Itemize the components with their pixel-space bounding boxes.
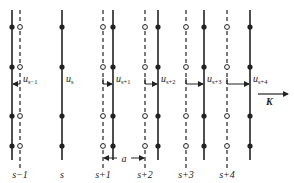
equilibrium-atom-open-circle bbox=[101, 25, 106, 30]
displacement-label: us−1 bbox=[23, 73, 37, 85]
lattice-spacing-indicator: a bbox=[104, 153, 144, 164]
displaced-atom-filled-dot bbox=[201, 24, 206, 29]
displaced-atom-filled-dot bbox=[247, 64, 252, 69]
equilibrium-atom-open-circle bbox=[225, 114, 230, 119]
equilibrium-atom-open-circle bbox=[18, 25, 23, 30]
equilibrium-atom-open-circle bbox=[184, 114, 189, 119]
plane-s+2: us+2s+2 bbox=[137, 10, 175, 180]
wavevector-label: K bbox=[265, 96, 274, 107]
displaced-atom-filled-dot bbox=[247, 143, 252, 148]
equilibrium-atom-open-circle bbox=[184, 144, 189, 149]
plane-s+3: us+3s+3 bbox=[178, 10, 221, 180]
displaced-atom-filled-dot bbox=[110, 113, 115, 118]
equilibrium-atom-open-circle bbox=[143, 65, 148, 70]
plane-s: uss bbox=[59, 10, 74, 180]
displacement-label: us+1 bbox=[116, 73, 130, 85]
displaced-atom-filled-dot bbox=[247, 24, 252, 29]
plane-index-label: s+2 bbox=[137, 169, 153, 180]
equilibrium-atom-open-circle bbox=[101, 114, 106, 119]
annotations: aK bbox=[104, 94, 288, 164]
equilibrium-atom-open-circle bbox=[18, 144, 23, 149]
displaced-atom-filled-dot bbox=[110, 143, 115, 148]
equilibrium-atom-open-circle bbox=[18, 114, 23, 119]
displaced-atom-filled-dot bbox=[155, 143, 160, 148]
displacement-label: us bbox=[66, 73, 74, 85]
displaced-atom-filled-dot bbox=[59, 143, 64, 148]
displaced-atom-filled-dot bbox=[155, 64, 160, 69]
equilibrium-atom-open-circle bbox=[101, 144, 106, 149]
equilibrium-atom-open-circle bbox=[101, 65, 106, 70]
displaced-atom-filled-dot bbox=[247, 113, 252, 118]
displacement-label: us+3 bbox=[207, 73, 221, 85]
equilibrium-atom-open-circle bbox=[143, 25, 148, 30]
atomic-planes: us−1s−1ussus+1s+1us+2s+2us+3s+3us+4s+4 bbox=[9, 10, 268, 180]
equilibrium-atom-open-circle bbox=[225, 25, 230, 30]
displaced-atom-filled-dot bbox=[201, 143, 206, 148]
plane-s-1: us−1s−1 bbox=[9, 10, 37, 180]
displaced-atom-filled-dot bbox=[59, 24, 64, 29]
plane-index-label: s+4 bbox=[219, 169, 235, 180]
plane-index-label: s+3 bbox=[178, 169, 194, 180]
displaced-atom-filled-dot bbox=[201, 113, 206, 118]
equilibrium-atom-open-circle bbox=[143, 114, 148, 119]
displacement-label: us+4 bbox=[253, 73, 268, 85]
plane-index-label: s+1 bbox=[95, 169, 111, 180]
displaced-atom-filled-dot bbox=[9, 24, 14, 29]
equilibrium-atom-open-circle bbox=[143, 144, 148, 149]
displaced-atom-filled-dot bbox=[59, 64, 64, 69]
displaced-atom-filled-dot bbox=[155, 24, 160, 29]
displaced-atom-filled-dot bbox=[59, 113, 64, 118]
equilibrium-atom-open-circle bbox=[18, 65, 23, 70]
displacement-arrow-icon bbox=[227, 78, 249, 84]
displaced-atom-filled-dot bbox=[155, 113, 160, 118]
plane-index-label: s−1 bbox=[12, 169, 28, 180]
equilibrium-atom-open-circle bbox=[225, 65, 230, 70]
spacing-label: a bbox=[122, 153, 127, 164]
displacement-arrow-icon bbox=[145, 78, 157, 84]
wavevector-indicator: K bbox=[258, 94, 288, 107]
displaced-atom-filled-dot bbox=[9, 64, 14, 69]
plane-index-label: s bbox=[60, 169, 64, 180]
equilibrium-atom-open-circle bbox=[184, 65, 189, 70]
displaced-atom-filled-dot bbox=[201, 64, 206, 69]
displaced-atom-filled-dot bbox=[9, 143, 14, 148]
displacement-arrow-icon bbox=[103, 78, 112, 84]
displaced-atom-filled-dot bbox=[110, 64, 115, 69]
plane-s+4: us+4s+4 bbox=[219, 10, 268, 180]
displacement-label: us+2 bbox=[161, 73, 175, 85]
displaced-atom-filled-dot bbox=[9, 113, 14, 118]
equilibrium-atom-open-circle bbox=[184, 25, 189, 30]
displacement-arrow-icon bbox=[186, 78, 203, 84]
lattice-wave-diagram: us−1s−1ussus+1s+1us+2s+2us+3s+3us+4s+4 a… bbox=[0, 0, 294, 183]
equilibrium-atom-open-circle bbox=[225, 144, 230, 149]
displaced-atom-filled-dot bbox=[110, 24, 115, 29]
